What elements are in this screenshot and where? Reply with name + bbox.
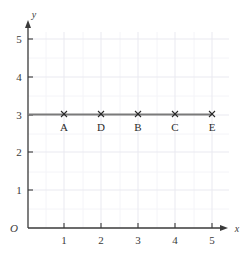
plot-svg: 1 2 3 4 5 1 2 3 4 5 O x y	[0, 0, 246, 255]
x-tick-label: 3	[135, 234, 141, 246]
x-axis-label: x	[234, 223, 240, 234]
point-label-D: D	[97, 121, 105, 133]
y-tick-label: 4	[16, 71, 22, 83]
origin-label: O	[10, 222, 18, 234]
point-label-B: B	[134, 121, 141, 133]
point-label-C: C	[171, 121, 178, 133]
coordinate-plane-figure: 1 2 3 4 5 1 2 3 4 5 O x y	[0, 0, 246, 255]
x-tick-label: 2	[98, 234, 104, 246]
point-label-A: A	[60, 121, 68, 133]
x-tick-label: 5	[209, 234, 215, 246]
y-axis-label: y	[31, 9, 37, 20]
y-tick-label: 5	[16, 33, 22, 45]
y-tick-label: 2	[16, 146, 22, 158]
y-tick-label: 3	[16, 109, 22, 121]
point-label-E: E	[209, 121, 216, 133]
y-tick-label: 1	[16, 184, 22, 196]
x-tick-label: 4	[172, 234, 178, 246]
x-tick-label: 1	[61, 234, 67, 246]
